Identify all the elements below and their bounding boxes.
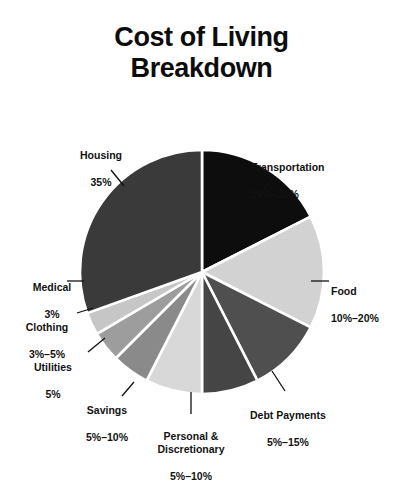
slice-label-utilities-name: Utilities (34, 361, 72, 373)
slice-label-personal-discretionary-value: 5%–10% (170, 470, 212, 482)
pie-chart (0, 0, 403, 483)
slice-label-medical-name: Medical (33, 281, 72, 293)
slice-label-personal-discretionary: Personal & Discretionary 5%–10% (139, 417, 243, 483)
slice-label-food: Food 10%–20% (331, 272, 379, 325)
leader-line-debt-payments (272, 371, 285, 391)
slice-label-transportation-name: Transportation (251, 161, 325, 173)
slice-label-medical: Medical 3% (16, 268, 88, 321)
slice-label-housing-name: Housing (80, 149, 122, 161)
slice-label-food-value: 10%–20% (331, 312, 379, 324)
slice-label-housing: Housing 35% (58, 136, 144, 189)
slice-label-utilities-value: 5% (45, 388, 60, 400)
slice-label-transportation: Transportation 15%–20% (251, 148, 325, 201)
slice-label-savings-value: 5%–10% (86, 431, 128, 443)
slice-label-debt-payments: Debt Payments 5%–15% (250, 396, 326, 449)
slice-label-clothing-value: 3%–5% (29, 348, 65, 360)
slice-label-personal-discretionary-name: Personal & Discretionary (157, 430, 224, 455)
slice-label-debt-payments-name: Debt Payments (250, 409, 326, 421)
slice-label-housing-value: 35% (90, 176, 111, 188)
slice-label-food-name: Food (331, 285, 357, 297)
slice-label-clothing-name: Clothing (26, 321, 69, 333)
slice-label-debt-payments-value: 5%–15% (267, 436, 309, 448)
slice-label-medical-value: 3% (44, 308, 59, 320)
pie-chart-svg (0, 0, 403, 483)
slice-label-transportation-value: 15%–20% (251, 188, 299, 200)
slice-label-savings-name: Savings (87, 404, 127, 416)
